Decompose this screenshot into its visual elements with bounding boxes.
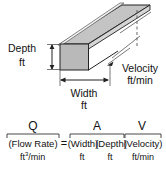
flow-rate-equation: Q (Flow Rate) ft3/min = A (Width) (Depth… <box>0 110 166 170</box>
term-name-velocity: (Velocity) <box>123 138 162 149</box>
depth-label: Depth <box>8 42 36 54</box>
duct-bottom-receding-edge <box>89 51 119 70</box>
term-symbol-v: V <box>138 119 146 133</box>
term-symbol-a: A <box>93 119 101 133</box>
term-unit-per-min: /min <box>28 152 45 162</box>
term-symbol-q: Q <box>28 119 37 133</box>
duct-diagram: Depth ft Width ft Velocity ft/min <box>0 0 166 112</box>
equation-term-velocity: V (Velocity) ft/min <box>123 119 162 162</box>
velocity-label: Velocity <box>122 62 159 74</box>
term-unit-velocity: ft/min <box>132 152 154 162</box>
equation-term-area: A (Width) (Depth) ft ft <box>68 119 127 162</box>
equals-sign: = <box>61 137 67 149</box>
flow-rate-figure: Depth ft Width ft Velocity ft/min Q (Flo… <box>0 0 166 170</box>
term-unit-depth-ft: ft <box>107 152 113 162</box>
width-label: Width <box>71 87 98 99</box>
depth-unit-label: ft <box>19 56 25 68</box>
width-arrowhead-right <box>104 78 110 83</box>
width-arrowhead-left <box>60 78 66 83</box>
term-name-depth: (Depth) <box>95 138 127 149</box>
term-unit-width-ft: ft <box>79 152 85 162</box>
term-name-flow-rate: (Flow Rate) <box>8 138 57 149</box>
velocity-flow-line-lower <box>112 36 140 58</box>
equation-term-flow-rate: Q (Flow Rate) ft3/min <box>7 119 59 162</box>
term-unit-flow-rate: ft3/min <box>20 151 45 162</box>
velocity-unit-label: ft/min <box>127 74 153 86</box>
term-name-width: (Width) <box>68 138 99 149</box>
duct-front-face <box>60 44 89 70</box>
